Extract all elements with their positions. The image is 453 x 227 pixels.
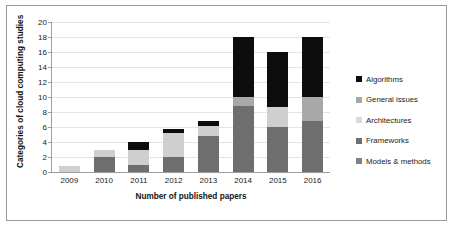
- y-tick-label: 18: [25, 33, 47, 42]
- x-axis-title: Number of published papers: [52, 192, 330, 201]
- bar-segment[interactable]: [302, 97, 323, 121]
- x-tick-label: 2012: [156, 172, 191, 188]
- bar-stack[interactable]: [198, 121, 219, 172]
- bar-segment[interactable]: [302, 37, 323, 97]
- bar-segment[interactable]: [94, 150, 115, 158]
- y-tick-label: 10: [25, 93, 47, 102]
- bar-group[interactable]: [191, 22, 226, 172]
- legend-label: Algorithms: [366, 75, 403, 84]
- y-tick-mark: [48, 37, 51, 38]
- legend-item[interactable]: Algorithms: [356, 69, 448, 90]
- bar-stack[interactable]: [94, 150, 115, 173]
- bar-stack[interactable]: [128, 142, 149, 172]
- bar-group[interactable]: [156, 22, 191, 172]
- bar-segment[interactable]: [233, 37, 254, 97]
- x-tick-label: 2010: [87, 172, 122, 188]
- y-tick-mark: [48, 112, 51, 113]
- bar-segment[interactable]: [198, 126, 219, 136]
- y-tick-mark: [48, 97, 51, 98]
- bar-group[interactable]: [87, 22, 122, 172]
- x-tick-label: 2009: [52, 172, 87, 188]
- bar-segment[interactable]: [163, 133, 184, 157]
- x-tick-label: 2013: [191, 172, 226, 188]
- x-tick-label: 2015: [261, 172, 296, 188]
- bar-segment[interactable]: [94, 157, 115, 172]
- legend-label: Architectures: [366, 116, 412, 125]
- bar-stack[interactable]: [302, 37, 323, 172]
- bar-stack[interactable]: [233, 37, 254, 172]
- y-tick-mark: [48, 172, 51, 173]
- bar-group[interactable]: [52, 22, 87, 172]
- legend-swatch-icon: [356, 97, 362, 103]
- x-tick-label: 2011: [122, 172, 157, 188]
- x-axis-ticks: 20092010201120122013201420152016: [52, 172, 330, 188]
- y-tick-label: 4: [25, 138, 47, 147]
- bar-segment[interactable]: [233, 106, 254, 172]
- legend-label: Frameworks: [366, 136, 409, 145]
- bar-group[interactable]: [122, 22, 157, 172]
- bar-segment[interactable]: [267, 52, 288, 107]
- y-tick-label: 8: [25, 108, 47, 117]
- legend-item[interactable]: Architectures: [356, 110, 448, 131]
- y-tick-mark: [48, 22, 51, 23]
- y-tick-label: 20: [25, 18, 47, 27]
- y-tick-mark: [48, 82, 51, 83]
- legend-item[interactable]: General issues: [356, 90, 448, 111]
- y-tick-mark: [48, 157, 51, 158]
- bar-segment[interactable]: [233, 97, 254, 106]
- legend-swatch-icon: [356, 158, 362, 164]
- bar-group[interactable]: [226, 22, 261, 172]
- legend-swatch-icon: [356, 117, 362, 123]
- bar-segment[interactable]: [128, 150, 149, 165]
- legend-swatch-icon: [356, 76, 362, 82]
- bar-series-container: [52, 22, 330, 172]
- chart-legend: AlgorithmsGeneral issuesArchitecturesFra…: [356, 69, 448, 172]
- legend-item[interactable]: Models & methods: [356, 151, 448, 172]
- bar-segment[interactable]: [128, 142, 149, 150]
- y-tick-label: 12: [25, 78, 47, 87]
- x-tick-label: 2016: [295, 172, 330, 188]
- bar-stack[interactable]: [267, 52, 288, 172]
- bar-segment[interactable]: [302, 121, 323, 172]
- y-tick-mark: [48, 52, 51, 53]
- bar-segment[interactable]: [163, 157, 184, 172]
- bar-group[interactable]: [261, 22, 296, 172]
- y-tick-label: 14: [25, 63, 47, 72]
- legend-item[interactable]: Frameworks: [356, 131, 448, 152]
- bar-group[interactable]: [295, 22, 330, 172]
- legend-label: General issues: [366, 95, 418, 104]
- y-tick-label: 0: [25, 168, 47, 177]
- x-tick-label: 2014: [226, 172, 261, 188]
- bar-segment[interactable]: [198, 136, 219, 172]
- y-tick-mark: [48, 67, 51, 68]
- bar-segment[interactable]: [267, 107, 288, 127]
- chart-figure: Categories of cloud computing studies 02…: [0, 0, 453, 227]
- bar-stack[interactable]: [163, 129, 184, 173]
- y-tick-mark: [48, 142, 51, 143]
- legend-label: Models & methods: [366, 157, 431, 166]
- y-tick-mark: [48, 127, 51, 128]
- bar-segment[interactable]: [128, 165, 149, 173]
- legend-swatch-icon: [356, 138, 362, 144]
- bar-segment[interactable]: [267, 127, 288, 172]
- y-tick-label: 16: [25, 48, 47, 57]
- plot-area: 02468101214161820: [52, 22, 330, 172]
- y-tick-label: 6: [25, 123, 47, 132]
- y-tick-label: 2: [25, 153, 47, 162]
